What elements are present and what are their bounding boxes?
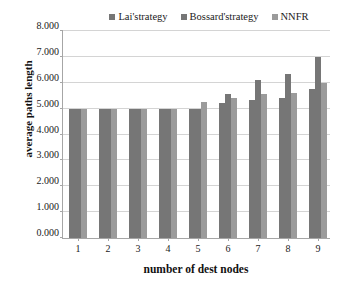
x-axis-tick-mark [138, 238, 139, 241]
x-axis-tick-label: 6 [213, 243, 243, 254]
bar[interactable] [171, 109, 177, 238]
legend-item[interactable]: NNFR [272, 11, 309, 22]
bar-group: 6 [213, 31, 243, 238]
x-axis-tick-mark [318, 238, 319, 241]
x-axis-tick-label: 3 [123, 243, 153, 254]
y-axis-tick-label: 4.000 [37, 125, 60, 135]
bar-chart: Lai'strategyBossard'strategyNNFR average… [0, 0, 340, 287]
x-axis-tick-label: 2 [93, 243, 123, 254]
x-axis-tick-mark [108, 238, 109, 241]
bar-group: 1 [63, 31, 93, 238]
bar[interactable] [201, 102, 207, 238]
bar[interactable] [111, 109, 117, 238]
bar[interactable] [141, 109, 147, 238]
legend-item[interactable]: Bossard'strategy [181, 11, 259, 22]
bar[interactable] [81, 109, 87, 238]
x-axis-tick-label: 7 [243, 243, 273, 254]
bar[interactable] [291, 93, 297, 238]
legend-swatch-icon [181, 14, 187, 20]
bar-group: 4 [153, 31, 183, 238]
y-axis-title: average paths length [22, 29, 34, 189]
y-axis-tick-label: 5.000 [37, 99, 60, 109]
x-axis-tick-mark [258, 238, 259, 241]
legend-swatch-icon [272, 14, 278, 20]
y-axis-tick-label: 7.000 [37, 47, 60, 57]
y-axis-tick-label: 8.000 [37, 21, 60, 31]
bar-group: 7 [243, 31, 273, 238]
bar-group: 2 [93, 31, 123, 238]
legend-swatch-icon [109, 14, 115, 20]
y-axis-tick-label: 0.000 [37, 228, 60, 238]
x-axis-tick-mark [168, 238, 169, 241]
x-axis-tick-mark [228, 238, 229, 241]
x-axis-tick-label: 9 [303, 243, 333, 254]
y-axis-tick-label: 1.000 [37, 202, 60, 212]
bar-group: 3 [123, 31, 153, 238]
legend-label: NNFR [281, 11, 309, 22]
x-axis-tick-mark [198, 238, 199, 241]
bar-group: 5 [183, 31, 213, 238]
y-axis-tick-label: 2.000 [37, 176, 60, 186]
bar[interactable] [231, 98, 237, 238]
x-axis-tick-label: 1 [63, 243, 93, 254]
chart-legend: Lai'strategyBossard'strategyNNFR [96, 9, 322, 24]
x-axis-tick-mark [78, 238, 79, 241]
x-axis-tick-label: 5 [183, 243, 213, 254]
y-axis-tick-label: 3.000 [37, 150, 60, 160]
y-axis-tick-label: 6.000 [37, 73, 60, 83]
x-axis-tick-mark [288, 238, 289, 241]
bar-group: 9 [303, 31, 333, 238]
legend-item[interactable]: Lai'strategy [109, 11, 167, 22]
legend-label: Lai'strategy [118, 11, 167, 22]
bar-group: 8 [273, 31, 303, 238]
legend-label: Bossard'strategy [190, 11, 259, 22]
bar[interactable] [261, 94, 267, 238]
x-axis-title: number of dest nodes [62, 263, 330, 275]
bar[interactable] [321, 83, 327, 238]
bar-groups: 123456789 [63, 31, 330, 238]
plot-area: 0.0001.0002.0003.0004.0005.0006.0007.000… [62, 31, 330, 239]
x-axis-tick-label: 8 [273, 243, 303, 254]
x-axis-tick-label: 4 [153, 243, 183, 254]
